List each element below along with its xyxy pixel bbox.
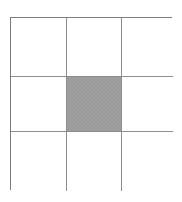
grid-cell-r2c2-shaded xyxy=(67,77,122,132)
grid-cell-r2c1 xyxy=(11,77,67,132)
grid-cell-r3c1 xyxy=(11,132,67,191)
grid-cell-r1c2 xyxy=(67,18,122,77)
grid-cell-r3c2 xyxy=(67,132,122,191)
diagram-canvas xyxy=(0,0,182,202)
grid-cell-r3c3 xyxy=(122,132,173,191)
grid-cell-r2c3 xyxy=(122,77,173,132)
grid-figure xyxy=(10,17,172,190)
grid-cell-r1c1 xyxy=(11,18,67,77)
grid-cell-r1c3 xyxy=(122,18,173,77)
